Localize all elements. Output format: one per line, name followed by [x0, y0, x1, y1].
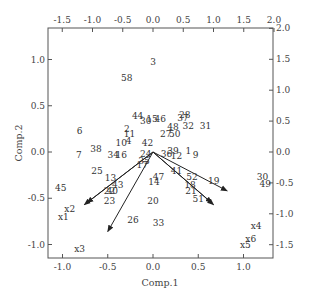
y-tick-label: -0.5	[28, 193, 46, 203]
top-tick-label: -1.5	[54, 15, 72, 25]
top-tick-label: -0.5	[114, 15, 132, 25]
point-label: 25	[91, 166, 103, 176]
right-tick-label: -1.5	[276, 240, 294, 250]
x-tick-label: 1.0	[236, 262, 251, 272]
point-label: 4	[126, 136, 132, 146]
y-tick-label: 0.0	[31, 147, 46, 157]
right-tick-label: 1.0	[276, 85, 291, 95]
loading-label: x3	[74, 244, 85, 254]
point-label: 38	[90, 144, 102, 154]
loading-label: x6	[245, 234, 256, 244]
point-label: 26	[127, 215, 139, 225]
point-label: 7	[76, 150, 82, 160]
x-tick-label: 0.0	[146, 262, 161, 272]
x-axis-title: Comp.1	[141, 277, 178, 288]
y-tick-label: -1.0	[28, 240, 46, 250]
point-label: 42	[142, 138, 153, 148]
loading-label: x4	[251, 221, 262, 231]
top-tick-label: 0.5	[176, 15, 191, 25]
y-axis-title: Comp.2	[13, 124, 24, 161]
right-tick-label: 0.0	[276, 147, 291, 157]
point-label: 31	[200, 121, 211, 131]
point-label: 33	[153, 218, 165, 228]
point-label: 46	[155, 114, 167, 124]
top-tick-label: 1.0	[206, 15, 221, 25]
point-label: 14	[148, 177, 160, 187]
point-label: 41	[171, 166, 182, 176]
point-label: 51	[193, 194, 204, 204]
point-label: 45	[55, 183, 67, 193]
y-tick-label: 1.0	[31, 55, 46, 65]
point-label: 9	[193, 150, 199, 160]
point-label: 23	[104, 196, 116, 206]
bottom-axis: -1.0-0.50.00.51.0	[54, 254, 251, 272]
point-label: 16	[116, 150, 128, 160]
y-tick-label: 0.5	[31, 101, 46, 111]
right-tick-label: 2.0	[276, 23, 291, 33]
point-label: 50	[169, 129, 181, 139]
right-tick-label: -1.0	[276, 209, 294, 219]
point-label: 40	[107, 186, 119, 196]
point-label: 12	[171, 151, 182, 161]
point-label: 32	[183, 121, 194, 131]
x-tick-label: 0.5	[191, 262, 206, 272]
right-tick-label: 1.5	[276, 54, 291, 64]
point-label: 49	[259, 179, 271, 189]
point-label: 3	[150, 57, 156, 67]
biplot-chart: -1.0-0.50.00.51.0 1.00.50.0-0.5-1.0 -1.5…	[0, 0, 309, 305]
top-axis: -1.5-1.0-0.50.00.51.01.52.0	[54, 15, 282, 32]
right-tick-label: -0.5	[276, 178, 294, 188]
right-tick-label: 0.5	[276, 116, 291, 126]
point-label: 19	[208, 176, 220, 186]
point-label: 6	[77, 126, 83, 136]
point-label: 58	[121, 73, 133, 83]
point-label: 1	[185, 146, 191, 156]
loading-arrows: x1x2x3x4x5x6	[58, 152, 262, 254]
top-tick-label: -1.0	[84, 15, 102, 25]
top-tick-label: 1.5	[237, 15, 252, 25]
x-tick-label: -1.0	[54, 262, 72, 272]
top-tick-label: 0.0	[146, 15, 161, 25]
loading-label: x2	[64, 204, 75, 214]
point-label: 20	[147, 196, 159, 206]
point-label: 17	[136, 160, 148, 170]
x-tick-label: -0.5	[99, 262, 117, 272]
